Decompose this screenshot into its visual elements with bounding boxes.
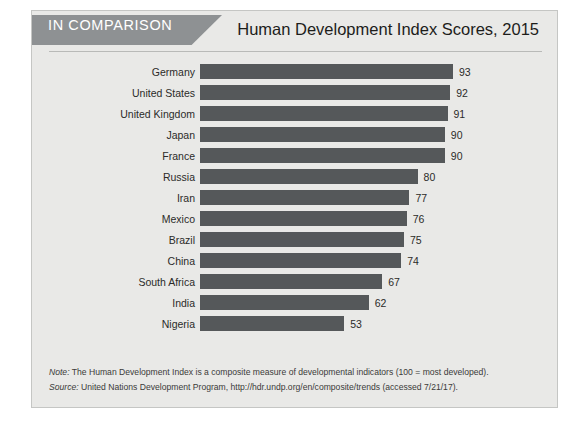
source-text: United Nations Development Program, http…	[79, 382, 458, 392]
bar	[200, 295, 369, 310]
bar-value-label: 90	[451, 150, 463, 162]
chart-row: United States92	[32, 84, 557, 105]
bar-track: 62	[200, 295, 551, 310]
note-label: Note:	[49, 367, 70, 377]
bar	[200, 274, 382, 289]
chart-row: United Kingdom91	[32, 105, 557, 126]
bar-category-label: South Africa	[32, 276, 195, 288]
bar-value-label: 90	[451, 129, 463, 141]
bar-value-label: 75	[410, 234, 422, 246]
bar-track: 53	[200, 316, 551, 331]
bar-category-label: Russia	[32, 171, 195, 183]
bar-track: 93	[200, 64, 551, 79]
bar	[200, 190, 409, 205]
bar-category-label: Nigeria	[32, 318, 195, 330]
bar-category-label: China	[32, 255, 195, 267]
bar-value-label: 80	[424, 171, 436, 183]
chart-row: Nigeria53	[32, 315, 557, 336]
bar	[200, 85, 450, 100]
bar-value-label: 62	[375, 297, 387, 309]
chart-header: IN COMPARISON Human Development Index Sc…	[32, 11, 557, 49]
bar-category-label: Mexico	[32, 213, 195, 225]
chart-row: China74	[32, 252, 557, 273]
bar-track: 77	[200, 190, 551, 205]
bar	[200, 169, 418, 184]
chart-row: France90	[32, 147, 557, 168]
bar-chart: Germany93United States92United Kingdom91…	[32, 63, 557, 351]
bar-value-label: 77	[415, 192, 427, 204]
bar	[200, 148, 445, 163]
bar-track: 90	[200, 148, 551, 163]
bar-value-label: 92	[456, 87, 468, 99]
bar	[200, 64, 453, 79]
bar-value-label: 74	[407, 255, 419, 267]
bar-track: 90	[200, 127, 551, 142]
bar-category-label: India	[32, 297, 195, 309]
source-line: Source: United Nations Development Progr…	[49, 380, 545, 395]
bar-track: 67	[200, 274, 551, 289]
chart-row: South Africa67	[32, 273, 557, 294]
bar-value-label: 93	[459, 66, 471, 78]
chart-row: Germany93	[32, 63, 557, 84]
note-text: The Human Development Index is a composi…	[70, 367, 489, 377]
bar-value-label: 53	[350, 318, 362, 330]
chart-row: India62	[32, 294, 557, 315]
chart-row: Japan90	[32, 126, 557, 147]
bar-track: 74	[200, 253, 551, 268]
bar	[200, 106, 448, 121]
bar	[200, 232, 404, 247]
header-divider	[49, 51, 542, 52]
bar-track: 92	[200, 85, 551, 100]
bar-category-label: Japan	[32, 129, 195, 141]
bar-value-label: 76	[413, 213, 425, 225]
chart-row: Russia80	[32, 168, 557, 189]
bar-track: 80	[200, 169, 551, 184]
chart-row: Brazil75	[32, 231, 557, 252]
bar-track: 75	[200, 232, 551, 247]
bar	[200, 253, 401, 268]
bar	[200, 316, 344, 331]
section-banner-label: IN COMPARISON	[48, 17, 172, 33]
chart-title: Human Development Index Scores, 2015	[237, 20, 539, 39]
bar-value-label: 91	[454, 108, 466, 120]
bar-category-label: Brazil	[32, 234, 195, 246]
bar-category-label: Iran	[32, 192, 195, 204]
bar	[200, 127, 445, 142]
bar	[200, 211, 407, 226]
chart-row: Iran77	[32, 189, 557, 210]
bar-category-label: France	[32, 150, 195, 162]
bar-category-label: United States	[32, 87, 195, 99]
bar-value-label: 67	[388, 276, 400, 288]
bar-category-label: Germany	[32, 66, 195, 78]
bar-category-label: United Kingdom	[32, 108, 195, 120]
chart-row: Mexico76	[32, 210, 557, 231]
note-line: Note: The Human Development Index is a c…	[49, 365, 545, 380]
bar-track: 76	[200, 211, 551, 226]
chart-footnotes: Note: The Human Development Index is a c…	[49, 365, 545, 395]
bar-track: 91	[200, 106, 551, 121]
infographic-card: IN COMPARISON Human Development Index Sc…	[31, 10, 558, 408]
source-label: Source:	[49, 382, 79, 392]
